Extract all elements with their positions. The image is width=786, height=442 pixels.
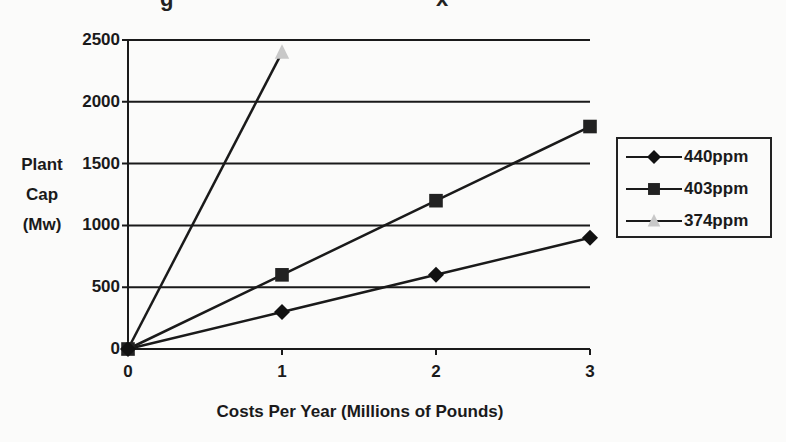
- series-line: [128, 238, 590, 349]
- diamond-marker-icon: [428, 267, 444, 283]
- y-tick-label: 1000: [82, 215, 120, 235]
- x-tick-label: 2: [431, 362, 440, 382]
- y-axis-label-line: (Mw): [14, 210, 70, 240]
- x-tick-label: 3: [585, 362, 594, 382]
- y-axis-label-line: Plant: [14, 150, 70, 180]
- y-tick-label: 500: [92, 277, 120, 297]
- diamond-marker-icon: [647, 150, 661, 164]
- legend-swatch: [626, 211, 682, 231]
- y-axis-label: PlantCap(Mw): [14, 150, 70, 240]
- triangle-marker-icon: [275, 44, 289, 58]
- series-line: [128, 52, 282, 349]
- y-tick-label: 1500: [82, 154, 120, 174]
- diamond-marker-icon: [582, 230, 598, 246]
- y-tick-label: 0: [111, 339, 120, 359]
- y-axis-label-line: Cap: [14, 180, 70, 210]
- x-tick-label: 1: [277, 362, 286, 382]
- legend-label: 403ppm: [684, 179, 748, 199]
- series-line: [128, 127, 590, 349]
- legend: 440ppm403ppm374ppm: [616, 137, 772, 238]
- y-tick-label: 2500: [82, 30, 120, 50]
- x-tick-label: 0: [123, 362, 132, 382]
- square-marker-icon: [429, 194, 443, 208]
- diamond-marker-icon: [274, 304, 290, 320]
- x-axis-label: Costs Per Year (Millions of Pounds): [217, 402, 504, 422]
- square-marker-icon: [583, 120, 597, 134]
- legend-label: 440ppm: [684, 147, 748, 167]
- legend-item: 440ppm: [626, 145, 748, 169]
- legend-swatch: [626, 147, 682, 167]
- legend-item: 374ppm: [626, 209, 748, 233]
- y-tick-label: 2000: [82, 92, 120, 112]
- square-marker-icon: [648, 183, 660, 195]
- legend-label: 374ppm: [684, 211, 748, 231]
- legend-swatch: [626, 179, 682, 199]
- square-marker-icon: [275, 268, 289, 282]
- legend-item: 403ppm: [626, 177, 748, 201]
